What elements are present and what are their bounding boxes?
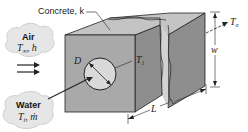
water-cloud	[3, 92, 53, 129]
outer-temp-leader	[206, 24, 225, 33]
air-flow-arrowhead-1	[34, 62, 40, 68]
air-props: T∞, h	[17, 42, 37, 54]
material-label: Concrete, k	[38, 6, 85, 16]
outer-temp-label: To	[230, 16, 239, 28]
air-label: Air	[22, 32, 35, 42]
diagram-canvas: D T1 Concrete, k Air T∞, h Water Ti, ṁ w…	[0, 0, 248, 132]
length-label: L	[150, 103, 157, 114]
water-label: Water	[16, 100, 41, 110]
diameter-label: D	[73, 55, 82, 66]
outer-temp-arrowhead	[222, 22, 228, 27]
air-flow-arrowhead-2	[34, 69, 40, 75]
width-arrowhead-top	[213, 13, 217, 18]
width-label: w	[211, 44, 218, 55]
length-arrowhead-left	[128, 115, 134, 119]
water-props: Ti, ṁ	[18, 111, 37, 123]
block-side-face-front	[135, 25, 162, 112]
width-arrowhead-bottom	[213, 81, 217, 86]
length-arrowhead-right	[200, 89, 206, 93]
